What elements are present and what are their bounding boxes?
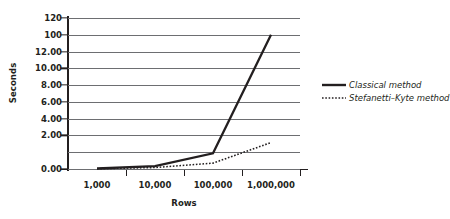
y-axis-tick-label: 12.00 <box>18 47 62 56</box>
x-axis-tick-label: 1,000 <box>84 180 111 190</box>
x-axis-tick-mark <box>242 170 243 176</box>
y-axis-tick-labels: 12010012.0010.008.006.004.002.000.00 <box>18 0 62 219</box>
y-axis-tick-label: 100 <box>18 31 62 40</box>
y-axis-tick-label: 2.00 <box>18 131 62 140</box>
legend-item-label: Classical method <box>349 80 422 90</box>
series-line-1 <box>97 35 271 169</box>
y-axis-tick-label: 8.00 <box>18 81 62 90</box>
legend-item[interactable]: Stefanetti–Kyte method <box>322 91 435 104</box>
x-axis-tick-mark <box>300 170 301 176</box>
y-axis-title: Seconds <box>8 53 18 113</box>
x-axis-tick-label: 1,000,000 <box>247 180 295 190</box>
series-container <box>68 18 300 169</box>
legend-dotted-line-icon <box>322 93 346 103</box>
y-axis-tick-label: 0.00 <box>18 165 62 174</box>
legend-item[interactable]: Classical method <box>322 78 435 91</box>
legend-solid-line-icon <box>322 80 346 90</box>
x-axis-title: Rows <box>68 198 300 208</box>
x-axis-tick-mark <box>184 170 185 176</box>
series-line-2 <box>97 143 271 169</box>
y-axis-tick-label: 120 <box>18 14 62 23</box>
x-axis-tick-label: 10,000 <box>139 180 172 190</box>
plot-area <box>68 18 300 169</box>
x-axis-tick-mark <box>126 170 127 176</box>
y-axis-tick-label: 6.00 <box>18 98 62 107</box>
y-axis-tick-label: 10.00 <box>18 64 62 73</box>
y-axis-tick-label: 4.00 <box>18 114 62 123</box>
x-axis-tick-label: 100,000 <box>194 180 233 190</box>
legend: Classical methodStefanetti–Kyte method <box>322 78 435 104</box>
legend-item-label: Stefanetti–Kyte method <box>349 93 450 103</box>
